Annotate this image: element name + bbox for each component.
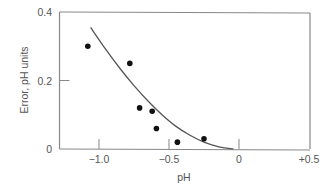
y-tick-label: 0.4 bbox=[37, 6, 52, 18]
data-point bbox=[175, 139, 181, 145]
data-point bbox=[149, 109, 155, 115]
y-tick-label: 0.2 bbox=[37, 75, 52, 87]
chart: −1.0−0.50+0.5 00.20.4 pH Error, pH units bbox=[0, 0, 332, 195]
plot-frame bbox=[60, 12, 311, 150]
x-axis bbox=[60, 149, 311, 150]
data-point bbox=[127, 61, 133, 67]
data-point bbox=[154, 126, 160, 132]
x-tick-label: +0.5 bbox=[299, 153, 320, 165]
y-tick-labels: 00.20.4 bbox=[37, 6, 52, 155]
data-point bbox=[85, 43, 91, 49]
y-axis-label: Error, pH units bbox=[18, 46, 30, 113]
x-tick-label: −0.5 bbox=[159, 153, 180, 165]
data-point bbox=[201, 136, 207, 142]
fit-curve bbox=[91, 27, 234, 149]
x-tick-label: −1.0 bbox=[89, 153, 110, 165]
top-border bbox=[60, 12, 311, 13]
axis-ticks bbox=[60, 81, 240, 150]
x-tick-label: 0 bbox=[236, 153, 242, 165]
data-points bbox=[85, 43, 207, 145]
x-tick-labels: −1.0−0.50+0.5 bbox=[89, 153, 320, 165]
y-tick-label: 0 bbox=[46, 143, 52, 155]
data-point bbox=[137, 105, 143, 111]
x-axis-label: pH bbox=[177, 171, 190, 183]
